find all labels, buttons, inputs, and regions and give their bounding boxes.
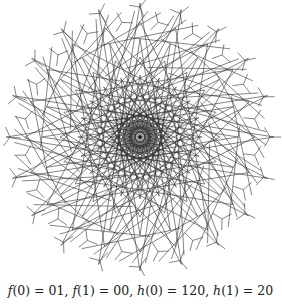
caption-h0: h(0) = 120, [137, 283, 213, 298]
figure-caption: f(0) = 01, f(1) = 00, h(0) = 120, h(1) =… [0, 283, 281, 298]
rosette-line-figure [0, 0, 281, 276]
caption-h1: h(1) = 20 [213, 283, 273, 298]
figure-lines [4, 0, 282, 276]
center-point [139, 136, 142, 139]
caption-f1: f(1) = 00, [72, 283, 137, 298]
caption-f0: f(0) = 01, [8, 283, 73, 298]
